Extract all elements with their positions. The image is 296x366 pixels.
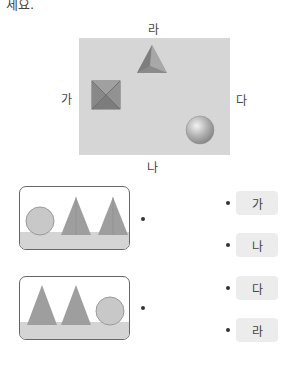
label-bottom: 나 <box>147 158 158 175</box>
option-da[interactable]: 다 <box>236 276 278 300</box>
option-ga[interactable]: 가 <box>236 191 278 215</box>
option-na[interactable]: 나 <box>236 233 278 257</box>
view-card-2 <box>19 276 130 340</box>
card2-match-dot[interactable] <box>141 306 145 310</box>
option-ra[interactable]: 라 <box>236 318 278 342</box>
instruction-text: 세요. <box>6 0 34 13</box>
card1-match-dot[interactable] <box>141 217 145 221</box>
option-dot-na[interactable] <box>226 243 230 247</box>
square-pyramid-icon <box>91 80 121 110</box>
card2-shapes <box>20 277 130 340</box>
label-left: 가 <box>61 90 72 107</box>
sphere-icon <box>185 115 215 145</box>
option-dot-da[interactable] <box>226 286 230 290</box>
option-dot-ra[interactable] <box>226 328 230 332</box>
view-card-1 <box>19 186 130 250</box>
card1-shapes <box>20 187 130 250</box>
triangular-pyramid-icon <box>136 44 168 74</box>
label-top: 라 <box>148 20 159 37</box>
label-right: 다 <box>236 91 247 108</box>
option-dot-ga[interactable] <box>226 201 230 205</box>
scene-top-view <box>79 38 230 155</box>
